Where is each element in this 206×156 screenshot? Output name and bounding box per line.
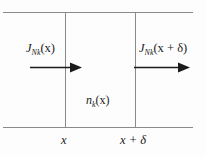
axis-label-x-plus-delta: x + δ <box>120 134 146 147</box>
axis-label-x: x <box>61 134 67 147</box>
density-label: nk(x) <box>86 94 110 106</box>
flux-in-arrow <box>30 62 82 73</box>
flux-out-argument: (x + δ) <box>153 41 187 55</box>
density-argument: (x) <box>96 93 110 107</box>
flux-out-arrow <box>134 62 190 73</box>
flux-in-subscript: Nk <box>32 48 41 57</box>
top-boundary-line <box>3 12 193 13</box>
flux-in-argument: (x) <box>40 41 55 55</box>
bottom-boundary-line <box>3 127 193 128</box>
density-subscript: k <box>92 100 96 109</box>
flux-diagram-figure: JNk(x) JNk(x + δ) nk(x) x x + δ <box>0 0 206 156</box>
flux-out-symbol: J <box>139 41 145 55</box>
flux-out-label: JNk(x + δ) <box>139 42 187 55</box>
flux-in-label: JNk(x) <box>26 42 55 55</box>
flux-in-symbol: J <box>26 41 32 55</box>
flux-out-subscript: Nk <box>145 48 154 57</box>
